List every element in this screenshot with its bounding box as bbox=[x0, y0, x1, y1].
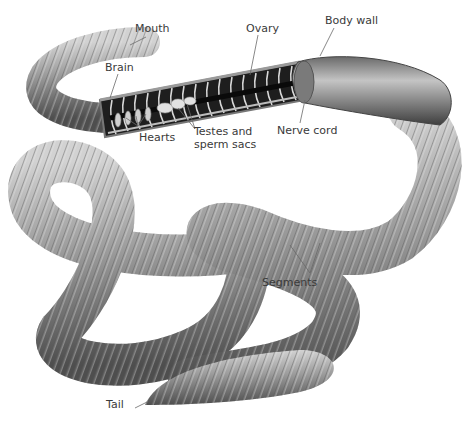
label-testes-line1: Testes and bbox=[194, 125, 252, 138]
label-hearts: Hearts bbox=[139, 131, 175, 144]
label-mouth: Mouth bbox=[135, 22, 169, 35]
label-testes-line2: sperm sacs bbox=[194, 138, 256, 151]
label-tail: Tail bbox=[106, 398, 124, 411]
earthworm-diagram: Mouth Brain Hearts Testes and sperm sacs… bbox=[0, 0, 471, 427]
label-segments: Segments bbox=[262, 276, 317, 289]
earthworm-illustration bbox=[0, 0, 471, 427]
label-nerve-cord: Nerve cord bbox=[277, 124, 337, 137]
body-wall-section bbox=[293, 57, 452, 125]
label-brain: Brain bbox=[105, 61, 134, 74]
label-ovary: Ovary bbox=[246, 22, 279, 35]
label-body-wall: Body wall bbox=[325, 14, 378, 27]
